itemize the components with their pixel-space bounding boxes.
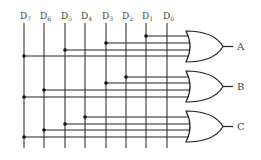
junction-dot bbox=[63, 122, 67, 126]
junction-dot bbox=[104, 41, 108, 45]
input-label-d4: D4 bbox=[81, 11, 92, 22]
input-label-d0: D0 bbox=[163, 11, 174, 22]
or-gate-c bbox=[186, 111, 223, 142]
input-label-d2: D2 bbox=[122, 11, 133, 22]
or-gate-b bbox=[186, 71, 223, 102]
input-label-d5: D5 bbox=[61, 11, 72, 22]
junction-dot bbox=[22, 54, 26, 58]
junction-dot bbox=[22, 135, 26, 139]
input-label-d7: D7 bbox=[20, 11, 31, 22]
junction-dot bbox=[124, 75, 128, 79]
or-gates: ABC bbox=[186, 31, 245, 142]
junction-dot bbox=[144, 34, 148, 38]
gate-input-lines bbox=[24, 36, 191, 137]
output-label-a: A bbox=[236, 41, 245, 52]
junction-dot bbox=[42, 128, 46, 132]
junction-dot bbox=[83, 115, 87, 119]
output-label-c: C bbox=[237, 121, 245, 132]
output-label-b: B bbox=[237, 81, 244, 92]
junction-dot bbox=[63, 48, 67, 52]
input-label-d6: D6 bbox=[40, 11, 51, 22]
input-labels: D7D6D5D4D3D2D1D0 bbox=[20, 11, 174, 22]
encoder-diagram: D7D6D5D4D3D2D1D0 ABC bbox=[0, 0, 261, 160]
input-label-d3: D3 bbox=[102, 11, 113, 22]
junction-dot bbox=[22, 95, 26, 99]
or-gate-a bbox=[186, 31, 223, 62]
junction-dot bbox=[104, 81, 108, 85]
input-label-d1: D1 bbox=[142, 11, 153, 22]
junction-dot bbox=[42, 88, 46, 92]
